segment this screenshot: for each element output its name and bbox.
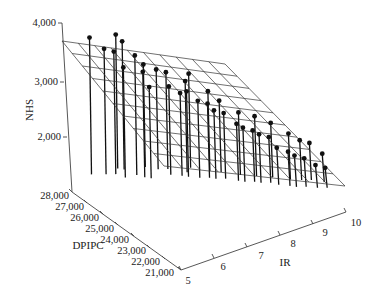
nhs-tick-4000: 4,000: [32, 17, 56, 28]
data-point-marker: [184, 89, 189, 94]
data-point-marker: [236, 110, 241, 115]
3d-scatter-chart: 4,000 3,000 2,000 NHS 28,000 27,000 26,0…: [0, 0, 379, 299]
nhs-axis-line: [62, 23, 72, 192]
data-point-marker: [257, 132, 262, 137]
data-point-marker: [221, 111, 226, 116]
dpipc-tick-21000: 21,000: [145, 267, 174, 278]
data-point-marker: [111, 49, 116, 54]
ir-axis-line: [181, 212, 346, 270]
dpipc-tick-23000: 23,000: [117, 245, 146, 256]
dpipc-tick-26000: 26,000: [70, 212, 99, 223]
data-point-marker: [241, 125, 246, 130]
data-point-marker: [132, 53, 137, 58]
data-point-marker: [266, 135, 271, 140]
data-stem: [238, 112, 240, 175]
data-point-marker: [183, 79, 188, 84]
data-point-marker: [163, 70, 168, 75]
dpipc-tick-24000: 24,000: [100, 234, 129, 245]
data-point-marker: [195, 98, 200, 103]
data-stems: [90, 35, 328, 188]
ir-tick-6: 6: [220, 261, 225, 272]
data-point-marker: [286, 149, 291, 154]
nhs-axis-title: NHS: [23, 99, 35, 121]
data-point-marker: [292, 153, 297, 158]
data-point-marker: [166, 84, 171, 89]
data-stem: [224, 113, 226, 178]
data-point-marker: [141, 62, 146, 67]
data-point-marker: [147, 85, 152, 90]
data-point-marker: [113, 32, 118, 37]
data-point-marker: [234, 121, 239, 126]
data-point-marker: [121, 65, 126, 70]
data-stem: [259, 134, 261, 182]
ir-tick-7: 7: [258, 250, 263, 261]
data-point-marker: [250, 128, 255, 133]
data-stem: [315, 165, 317, 188]
data-point-marker: [154, 67, 159, 72]
data-stem: [149, 87, 151, 178]
nhs-tick-labels: 4,000 3,000 2,000: [32, 17, 61, 142]
data-point-marker: [252, 114, 257, 119]
ir-axis-title: IR: [280, 256, 292, 268]
data-point-marker: [205, 89, 210, 94]
data-point-marker: [87, 35, 92, 40]
data-point-marker: [140, 69, 145, 74]
data-stem: [294, 156, 296, 187]
data-point-marker: [307, 141, 312, 146]
ir-tick-5: 5: [185, 275, 190, 286]
dpipc-tick-labels: 28,000 27,000 26,000 25,000 24,000 23,00…: [40, 190, 174, 278]
dpipc-tick-28000: 28,000: [40, 190, 69, 201]
ir-tick-8: 8: [290, 238, 295, 249]
data-point-marker: [102, 46, 107, 51]
nhs-tick-2000: 2,000: [37, 131, 61, 142]
data-point-marker: [217, 98, 222, 103]
data-stem: [309, 143, 311, 180]
dpipc-tick-27000: 27,000: [55, 201, 84, 212]
data-point-marker: [178, 91, 183, 96]
data-point-marker: [212, 108, 217, 113]
data-point-marker: [120, 39, 125, 44]
plane-grid-line: [133, 129, 309, 150]
dpipc-axis-title: DPIPC: [72, 239, 103, 251]
data-point-marker: [297, 138, 302, 143]
data-point-marker: [274, 145, 279, 150]
data-point-marker: [205, 101, 210, 106]
ir-tick-labels: 5 6 7 8 9 10: [185, 217, 361, 286]
data-point-marker: [320, 151, 325, 156]
data-point-marker: [323, 165, 328, 170]
ir-tick-10: 10: [351, 217, 362, 228]
data-stem: [104, 49, 106, 174]
plane-grid-line: [209, 62, 327, 184]
data-stem: [271, 123, 273, 177]
nhs-tick-3000: 3,000: [34, 76, 58, 87]
dpipc-tick-25000: 25,000: [85, 223, 114, 234]
dpipc-tick-22000: 22,000: [131, 256, 160, 267]
ir-tick-9: 9: [322, 227, 327, 238]
data-point-marker: [268, 121, 273, 126]
data-stem: [325, 168, 327, 188]
data-point-marker: [186, 71, 191, 76]
data-point-marker: [286, 131, 291, 136]
data-stem: [198, 101, 200, 178]
data-point-marker: [313, 163, 318, 168]
data-stem: [243, 128, 245, 182]
data-point-marker: [302, 156, 307, 161]
